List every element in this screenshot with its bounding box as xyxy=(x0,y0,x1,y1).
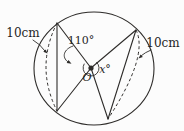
center-angle-leader-arrow xyxy=(64,46,73,62)
center-angle-label: 110° xyxy=(68,34,95,47)
radius-top-right xyxy=(91,30,136,68)
right-measure-arrow xyxy=(142,50,152,56)
center-point-label: O xyxy=(82,71,91,84)
center-angle-arrowhead-icon xyxy=(67,60,72,64)
left-measure-label: 10cm xyxy=(6,26,40,40)
folded-arc-left xyxy=(46,23,57,111)
geometry-figure: 10cm 10cm 110° x° O xyxy=(0,0,184,131)
unknown-angle-label: x° xyxy=(99,63,111,76)
right-measure-label: 10cm xyxy=(146,36,180,50)
circle-outline xyxy=(34,12,154,125)
figure-canvas: 10cm 10cm 110° x° O xyxy=(0,0,184,131)
center-point-dot xyxy=(88,65,93,70)
